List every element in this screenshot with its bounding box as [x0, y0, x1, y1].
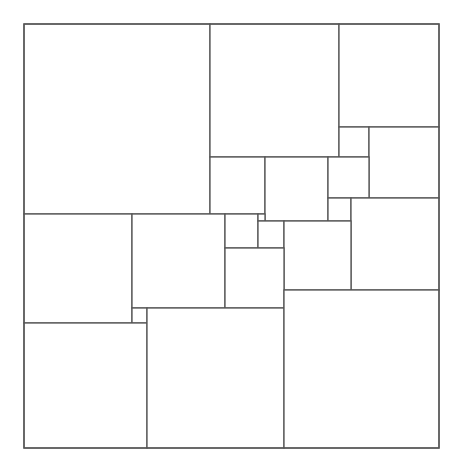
square-tile-c	[339, 24, 439, 127]
square-tile-q	[132, 214, 225, 308]
square-tile-i	[328, 198, 351, 221]
square-tile-g	[210, 157, 265, 214]
square-tile-l	[258, 221, 284, 248]
square-tile-t	[147, 308, 284, 448]
square-tile-s	[24, 323, 147, 448]
square-tile-r	[132, 308, 147, 323]
square-tile-p	[24, 214, 132, 323]
tile-group	[24, 24, 439, 448]
square-tile-h	[265, 157, 328, 221]
square-tile-e	[369, 127, 439, 198]
square-tile-n	[284, 221, 351, 290]
square-tile-k	[258, 214, 265, 221]
square-tile-m	[225, 248, 284, 308]
square-tile-u	[284, 290, 439, 448]
square-tile-b	[210, 24, 339, 157]
square-tile-f	[328, 157, 369, 198]
square-tile-a	[24, 24, 210, 214]
square-tile-d	[339, 127, 369, 157]
squared-square-diagram	[0, 0, 464, 471]
square-tile-j	[225, 214, 258, 248]
square-tile-o	[351, 198, 439, 290]
